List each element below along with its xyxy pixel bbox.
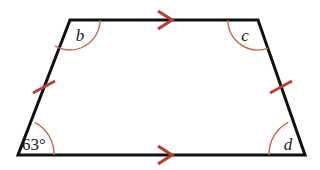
- angle-label-bottom-right: d: [284, 135, 293, 154]
- trapezoid-diagram: b c 63° d: [0, 0, 320, 170]
- geometry-figure: b c 63° d: [0, 0, 320, 170]
- angle-label-top-left: b: [76, 26, 85, 45]
- trapezoid-outline: [18, 20, 305, 155]
- angle-label-bottom-left: 63°: [22, 135, 46, 154]
- angle-label-top-right: c: [241, 26, 249, 45]
